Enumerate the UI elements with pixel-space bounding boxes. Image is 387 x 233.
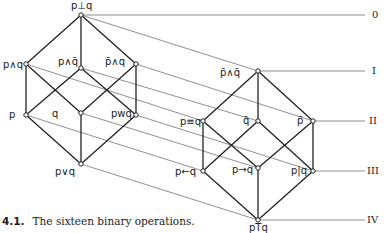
node-label-p-and-not-q: p∧q̄ (58, 57, 78, 67)
lattice-node (24, 113, 28, 117)
lattice-node (79, 13, 83, 17)
figure-caption-text: The sixteen binary operations. (33, 215, 195, 227)
lattice-node (79, 111, 83, 115)
lattice-node (134, 62, 138, 66)
lattice-node (201, 119, 205, 123)
binary-operations-diagram: p⊥q p∧q p∧q̄ p̄∧q p q pwq p∨q p̄∧q̄ p≡q … (0, 0, 387, 233)
lattice-node (134, 113, 138, 117)
node-label-not-q: q̄ (243, 116, 249, 126)
node-label-p-or-q: p∨q (55, 167, 75, 177)
node-label-pwq: pwq (111, 109, 132, 119)
node-label-not-p-and-q: p̄∧q (105, 57, 125, 67)
figure-caption: 4.1.The sixteen binary operations. (2, 215, 195, 227)
lattice-node (256, 69, 260, 73)
node-label-p: p (9, 110, 15, 120)
node-label-not-p: p̄ (297, 116, 303, 126)
level-label-I: I (372, 66, 376, 76)
level-label-IV: IV (367, 215, 378, 225)
level-label-0: 0 (372, 10, 378, 20)
node-label-p-nand-q: p|q (291, 166, 307, 176)
lattice-node (201, 169, 205, 173)
node-label-p-and-q: p∧q (3, 60, 23, 70)
lattice-node (256, 166, 260, 170)
node-label-ptq: pTq (249, 223, 268, 233)
lattice-node (79, 66, 83, 70)
node-label-p-from-q: p←q (175, 167, 196, 177)
node-label-top: p⊥q (71, 1, 92, 11)
lattice-node (256, 119, 260, 123)
lattice-node (311, 119, 315, 123)
node-label-p-equiv-q: p≡q (180, 117, 201, 127)
node-label-p-implies-q: p→q (232, 165, 253, 175)
level-label-III: III (367, 166, 379, 176)
level-label-II: II (369, 116, 377, 126)
lattice-node (311, 169, 315, 173)
lattice-node (24, 62, 28, 66)
figure-number: 4.1. (2, 215, 25, 227)
lattice-node (79, 162, 83, 166)
node-label-q: q (52, 109, 58, 119)
node-label-not-p-and-not-q: p̄∧q̄ (220, 68, 240, 78)
